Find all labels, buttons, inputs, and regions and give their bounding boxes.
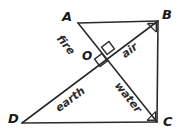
- vertex-label-d: D: [8, 112, 19, 125]
- vertex-label-a: A: [62, 10, 72, 23]
- geometry-figure: A B C D O fire air earth water: [0, 0, 181, 139]
- edge-bc: [157, 21, 158, 122]
- right-angle-mark-at-o-upper: [102, 42, 115, 55]
- vertex-label-c: C: [163, 115, 173, 128]
- figure-canvas: [0, 0, 181, 139]
- edge-dc: [22, 122, 157, 123]
- vertex-label-o: O: [82, 50, 92, 62]
- vertex-label-b: B: [162, 8, 172, 21]
- edge-ab: [78, 21, 158, 23]
